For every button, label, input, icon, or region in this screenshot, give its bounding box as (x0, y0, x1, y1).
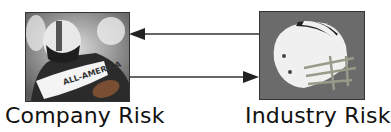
arrow-right-head-icon (243, 71, 259, 83)
industry-risk-label: Industry Risk (245, 103, 391, 128)
arrow-left-head-icon (129, 28, 145, 40)
company-risk-label: Company Risk (5, 103, 165, 128)
